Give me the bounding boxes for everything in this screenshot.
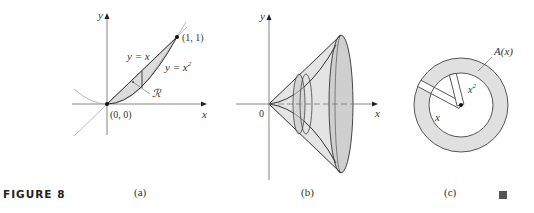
y-axis-arrow-icon <box>105 13 110 19</box>
outer-radius-label: x <box>434 111 440 123</box>
y-axis-label: y <box>259 10 265 22</box>
caption-a: (a) <box>134 186 146 198</box>
end-of-example-mark <box>499 191 507 199</box>
point-1-1 <box>175 35 179 39</box>
caption-b: (b) <box>301 186 314 198</box>
figure-number: FIGURE 8 <box>3 188 65 200</box>
figure-canvas: y x (1, 1) (0, 0) y = x y = x2 ℛ y x <box>0 0 534 213</box>
origin-label: (0, 0) <box>110 109 132 121</box>
y-axis-label: y <box>97 9 103 21</box>
caption-c: (c) <box>444 186 456 198</box>
panel-b: y x 0 <box>236 10 380 180</box>
origin-label: 0 <box>259 108 264 119</box>
x-axis-arrow-icon <box>372 102 378 107</box>
x-axis-arrow-icon <box>201 102 207 107</box>
region-label: ℛ <box>152 87 162 99</box>
panel-a: y x (1, 1) (0, 0) y = x y = x2 ℛ <box>72 9 207 136</box>
area-label: A(x) <box>493 45 513 58</box>
origin-point <box>105 102 109 106</box>
y-axis-arrow-icon <box>267 14 272 20</box>
center-point <box>459 103 463 107</box>
x-axis-label: x <box>374 107 380 119</box>
point-1-1-label: (1, 1) <box>182 32 204 44</box>
parabola-label: y = x2 <box>164 60 192 73</box>
panel-c: A(x) x x2 <box>414 45 513 152</box>
region-pointer-dot <box>132 81 134 83</box>
line-label: y = x <box>126 50 150 62</box>
x-axis-label: x <box>201 108 207 120</box>
